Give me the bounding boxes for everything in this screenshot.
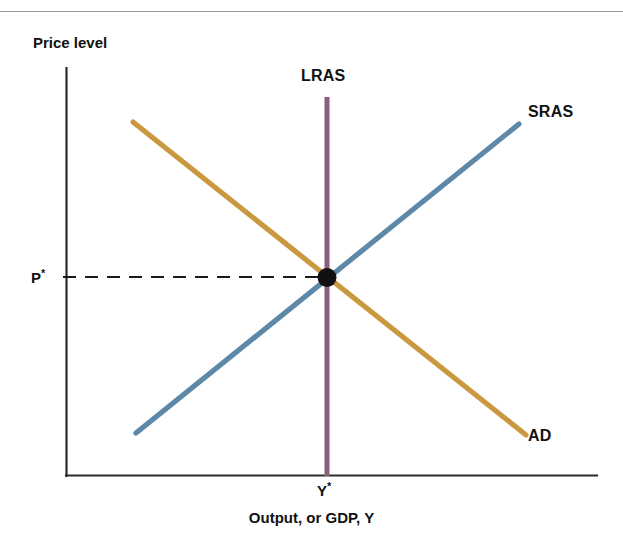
- y-axis-label: Price level: [33, 35, 107, 50]
- sras-curve-label: SRAS: [528, 104, 573, 120]
- equilibrium-output-star: *: [327, 480, 331, 492]
- equilibrium-output-label: Y*: [317, 481, 331, 498]
- lras-curve-label: LRAS: [301, 68, 345, 84]
- ad-curve-label: AD: [528, 428, 552, 444]
- ad-as-diagram: Price level LRAS SRAS AD P* Y* Output, o…: [0, 0, 623, 538]
- equilibrium-price-star: *: [41, 267, 45, 279]
- equilibrium-point-dot[interactable]: [318, 268, 337, 287]
- equilibrium-price-letter: P: [31, 269, 41, 286]
- x-axis-label: Output, or GDP, Y: [0, 510, 623, 525]
- equilibrium-price-label: P*: [31, 268, 45, 285]
- equilibrium-output-letter: Y: [317, 482, 327, 499]
